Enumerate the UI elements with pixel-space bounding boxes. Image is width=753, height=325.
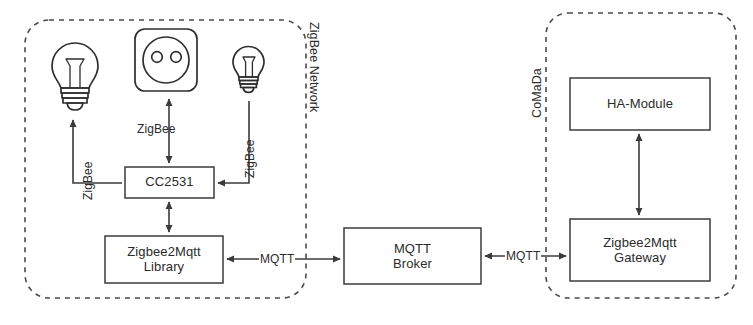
edge-label-zigbee-lamp-right: ZigBee bbox=[243, 139, 257, 178]
edge-label-zigbee-lamp-left: ZigBee bbox=[81, 161, 95, 200]
power-socket-icon bbox=[135, 29, 197, 91]
edge-label-mqtt-library-broker: MQTT bbox=[259, 252, 295, 266]
edge-label-zigbee-socket: ZigBee bbox=[137, 122, 176, 136]
lightbulb-icon bbox=[52, 43, 98, 110]
node-label-zigbee2mqtt-gateway: Zigbee2Mqtt Gateway bbox=[570, 235, 710, 265]
edge-label-mqtt-broker-gateway: MQTT bbox=[505, 249, 541, 263]
node-label-ha-module: HA-Module bbox=[570, 96, 710, 111]
diagram-vector-layer bbox=[0, 0, 753, 325]
node-label-cc2531: CC2531 bbox=[125, 174, 214, 189]
diagram-canvas: ZigBee Network CoMaDa CC2531 Zigbee2Mqtt… bbox=[0, 0, 753, 325]
group-label-comada: CoMaDa bbox=[530, 68, 544, 118]
node-label-zigbee2mqtt-library: Zigbee2Mqtt Library bbox=[105, 244, 223, 274]
group-label-zigbee-network: ZigBee Network bbox=[307, 22, 321, 112]
lightbulb-icon bbox=[233, 46, 264, 92]
node-label-mqtt-broker: MQTT Broker bbox=[344, 241, 481, 271]
